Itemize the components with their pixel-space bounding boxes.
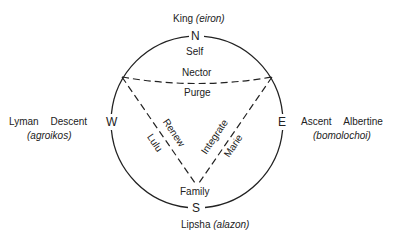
west-name: Lyman (9, 116, 39, 127)
south-inner-label: Family (180, 187, 209, 197)
top-edge-above-label: Nector (182, 68, 211, 78)
cardinal-west: W (106, 116, 117, 128)
north-role: (eiron) (196, 13, 225, 24)
east-role: (bomolochoi) (313, 131, 371, 141)
east-movement: Ascent (301, 116, 332, 127)
west-label: Lyman Descent (9, 117, 87, 127)
south-role: (alazon) (213, 219, 249, 230)
west-movement: Descent (50, 116, 87, 127)
cardinal-north: N (191, 30, 200, 42)
cardinal-south: S (192, 202, 200, 214)
north-inner-label: Self (186, 47, 203, 57)
east-name: Albertine (343, 116, 382, 127)
east-label: Ascent Albertine (301, 117, 383, 127)
north-name: King (173, 13, 193, 24)
south-label: Lipsha (alazon) (181, 220, 249, 230)
outer-circle (111, 36, 282, 207)
west-role: (agroikos) (27, 131, 71, 141)
south-name: Lipsha (181, 219, 210, 230)
top-edge-below-label: Purge (184, 88, 211, 98)
cardinal-east: E (278, 116, 286, 128)
compass-diagram: King (eiron) N Self Nector Purge Lyman D… (0, 0, 400, 239)
north-label: King (eiron) (173, 14, 225, 24)
